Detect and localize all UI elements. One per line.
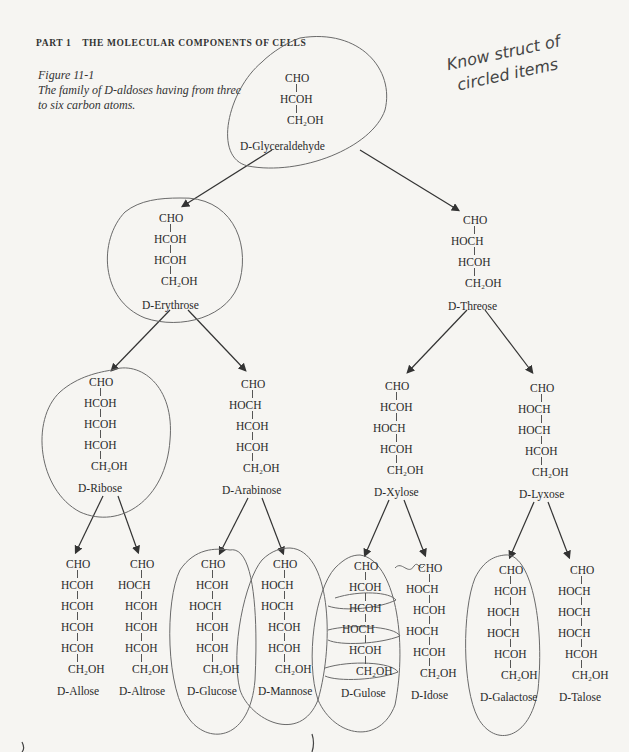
group-c6: CH₂OH <box>501 669 538 681</box>
group-c2: HCOH <box>84 397 117 409</box>
group-c6: CH₂OH <box>572 669 609 681</box>
group-c1: CHO <box>285 72 309 84</box>
molecule-name: D-Erythrose <box>142 299 199 311</box>
group-c4: HOCH <box>487 627 520 639</box>
group-c4: HCOH <box>61 621 94 633</box>
group-c5: HCOH <box>61 642 94 654</box>
group-c6: CH₂OH <box>132 663 169 675</box>
group-c1: CHO <box>273 558 297 570</box>
group-c4: HOCH <box>558 627 591 639</box>
group-c1: CHO <box>570 564 594 576</box>
group-c1: CHO <box>530 382 554 394</box>
group-c5: HCOH <box>196 642 229 654</box>
group-c2: HCOH <box>494 585 527 597</box>
group-c1: CHO <box>385 380 409 392</box>
molecule-name: D-Threose <box>448 300 497 312</box>
molecule-name: D-Xylose <box>374 486 419 498</box>
molecule-name: D-Glucose <box>187 685 237 697</box>
group-c1: CHO <box>241 378 265 390</box>
group-c4: HOCH <box>406 625 439 637</box>
molecule-name: D-Arabinose <box>222 484 281 496</box>
group-c5: CH₂OH <box>387 464 424 476</box>
molecule-name: D-Allose <box>57 685 99 697</box>
group-c6: CH₂OH <box>356 665 393 677</box>
pencil-mark-bottom-left <box>22 742 24 752</box>
molecule-name: D-Galactose <box>480 691 537 703</box>
group-c3: HCOH <box>458 256 491 268</box>
group-c3: HOCH <box>373 422 406 434</box>
molecule-name: D-Mannose <box>258 685 312 697</box>
molecule-name: D-Ribose <box>78 482 122 494</box>
group-c4: HOCH <box>342 623 375 635</box>
group-c6: CH₂OH <box>203 663 240 675</box>
group-c1: CHO <box>159 212 183 224</box>
group-c1: CHO <box>66 558 90 570</box>
circle-galactose <box>466 555 540 736</box>
group-c5: HCOH <box>349 644 382 656</box>
group-c4: HCOH <box>268 621 301 633</box>
group-c3: HCOH <box>61 600 94 612</box>
molecule-name: D-Lyxose <box>519 488 564 500</box>
molecule-name: D-Gulose <box>341 687 386 699</box>
group-c5: HCOH <box>494 648 527 660</box>
bond <box>296 84 297 92</box>
group-c1: CHO <box>89 376 113 388</box>
group-c1: CHO <box>418 562 442 574</box>
group-c4: HCOH <box>125 621 158 633</box>
group-c3: HOCH <box>518 424 551 436</box>
group-c5: HCOH <box>565 648 598 660</box>
group-c3: HCOH <box>413 604 446 616</box>
group-c4: HCOH <box>196 621 229 633</box>
group-c3: HCOH <box>84 418 117 430</box>
group-c2: HOCH <box>261 579 294 591</box>
group-c4: HCOH <box>380 443 413 455</box>
group-c1: CHO <box>130 558 154 570</box>
group-c6: CH₂OH <box>68 663 105 675</box>
group-c5: HCOH <box>413 646 446 658</box>
group-c4: HCOH <box>84 439 117 451</box>
group-c3: HOCH <box>558 606 591 618</box>
group-c5: HCOH <box>268 642 301 654</box>
group-c4: HCOH <box>525 445 558 457</box>
group-c5: CH₂OH <box>91 460 128 472</box>
group-c5: HCOH <box>125 642 158 654</box>
group-c2: HOCH <box>406 583 439 595</box>
group-c2: HCOH <box>380 401 413 413</box>
group-c2: HCOH <box>349 581 382 593</box>
group-c4: CH₂OH <box>465 277 502 289</box>
group-c1: CHO <box>499 564 523 576</box>
molecule-name: D-Idose <box>411 689 448 701</box>
group-c3: HCOH <box>349 602 382 614</box>
group-c6: CH₂OH <box>420 667 457 679</box>
group-c2: HOCH <box>518 403 551 415</box>
tree-arrows <box>76 150 569 557</box>
group-c2: HCOH <box>61 579 94 591</box>
group-c2: HCOH <box>280 93 313 105</box>
group-c2: HOCH <box>451 235 484 247</box>
group-c1: CHO <box>463 214 487 226</box>
group-c5: CH₂OH <box>532 466 569 478</box>
group-c4: CH₂OH <box>161 275 198 287</box>
group-c2: HOCH <box>229 399 262 411</box>
group-c3: HCOH <box>154 254 187 266</box>
pencil-mark-bottom <box>312 734 314 752</box>
group-c2: HCOH <box>196 579 229 591</box>
molecule-name: D-Glyceraldehyde <box>240 140 325 152</box>
group-c3: HCOH <box>236 420 269 432</box>
group-c2: HCOH <box>154 233 187 245</box>
group-c1: CHO <box>201 558 225 570</box>
group-c3: HCOH <box>125 600 158 612</box>
molecule-name: D-Altrose <box>119 685 165 697</box>
group-c6: CH₂OH <box>275 663 312 675</box>
group-c4: HCOH <box>236 441 269 453</box>
bond <box>296 105 297 113</box>
group-c3: HOCH <box>261 600 294 612</box>
group-c5: CH₂OH <box>243 462 280 474</box>
group-c3: HOCH <box>189 600 222 612</box>
group-c1: CHO <box>354 560 378 572</box>
molecule-name: D-Talose <box>559 691 601 703</box>
group-c3: HOCH <box>487 606 520 618</box>
group-c2: HOCH <box>558 585 591 597</box>
group-c3: CH₂OH <box>287 114 324 126</box>
group-c2: HOCH <box>118 579 151 591</box>
